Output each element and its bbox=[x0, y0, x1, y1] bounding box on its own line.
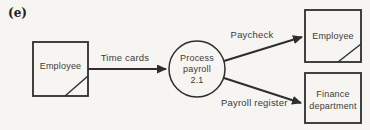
process-label-line1: Process bbox=[169, 53, 225, 64]
dfd-figure: (e) Employee Employee Finance department… bbox=[0, 0, 370, 130]
entity-corner-diagonal-mark bbox=[338, 44, 361, 62]
process-label-line3: 2.1 bbox=[169, 75, 225, 86]
figure-label: (e) bbox=[8, 6, 27, 20]
flow-label-payroll-register: Payroll register bbox=[221, 97, 287, 108]
entity-corner-diagonal-mark bbox=[65, 76, 88, 96]
flow-arrow-paycheck bbox=[224, 37, 302, 61]
flow-label-paycheck: Paycheck bbox=[222, 29, 282, 40]
process-label-line2: payroll bbox=[169, 64, 225, 75]
flow-label-time-cards: Time cards bbox=[95, 52, 155, 63]
external-entity-label-employee-source: Employee bbox=[33, 61, 88, 72]
external-entity-label-finance-department: Finance department bbox=[304, 89, 362, 112]
process-label: Process payroll 2.1 bbox=[169, 53, 225, 86]
external-entity-label-employee-destination: Employee bbox=[305, 31, 361, 42]
